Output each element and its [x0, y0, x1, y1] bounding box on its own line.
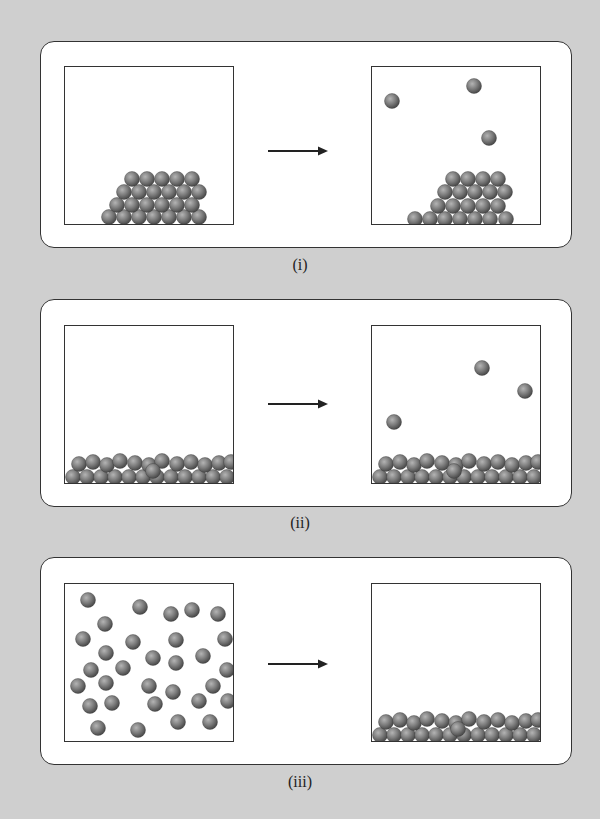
particle: [476, 172, 491, 187]
particle: [170, 198, 185, 213]
particle: [429, 470, 444, 485]
particle: [140, 172, 155, 187]
particle: [393, 455, 408, 470]
particle: [117, 185, 132, 200]
particle: [477, 457, 492, 472]
particle: [132, 185, 147, 200]
particle: [407, 458, 422, 473]
particle: [461, 172, 476, 187]
particle: [468, 212, 483, 226]
particle: [446, 199, 461, 214]
particle: [126, 635, 141, 650]
panel-i-after-box: [371, 66, 541, 225]
particle: [482, 131, 497, 146]
particle: [178, 470, 193, 485]
particle: [499, 212, 514, 226]
particle: [169, 633, 184, 648]
panel-i-label: (i): [0, 256, 600, 274]
panel-ii: [40, 299, 572, 507]
particle: [192, 694, 207, 709]
particle: [147, 185, 162, 200]
panel-iii: [40, 557, 572, 765]
particle: [408, 212, 423, 226]
particle: [518, 384, 533, 399]
particle: [81, 593, 96, 608]
particle: [169, 656, 184, 671]
particle: [170, 172, 185, 187]
particle: [491, 172, 506, 187]
particle: [505, 716, 520, 731]
particle: [477, 715, 492, 730]
particles: [65, 326, 234, 484]
particle: [122, 470, 137, 485]
particle: [110, 198, 125, 213]
particle: [491, 455, 506, 470]
particle: [185, 198, 200, 213]
particle: [146, 464, 161, 479]
particle: [80, 470, 95, 485]
particle: [498, 185, 513, 200]
particle: [379, 457, 394, 472]
particle: [379, 715, 394, 730]
particle: [438, 212, 453, 226]
particle: [116, 661, 131, 676]
panel-iii-after-box: [371, 583, 541, 742]
particle: [221, 694, 235, 709]
particle: [184, 455, 199, 470]
particle: [373, 728, 388, 743]
particle: [407, 716, 422, 731]
particle: [113, 454, 128, 469]
particle: [420, 712, 435, 727]
particle: [475, 361, 490, 376]
particle: [98, 617, 113, 632]
particle: [505, 458, 520, 473]
particle: [438, 185, 453, 200]
particle: [148, 697, 163, 712]
particles: [372, 67, 541, 225]
particle: [420, 454, 435, 469]
particle: [166, 685, 181, 700]
particle: [461, 199, 476, 214]
particle: [373, 470, 388, 485]
particle: [446, 172, 461, 187]
particle: [142, 679, 157, 694]
particle: [476, 199, 491, 214]
particle: [177, 185, 192, 200]
particle: [66, 470, 81, 485]
particle: [483, 185, 498, 200]
particle: [100, 458, 115, 473]
particle: [220, 470, 235, 485]
particle: [185, 172, 200, 187]
particle: [170, 457, 185, 472]
particle: [453, 185, 468, 200]
particles: [372, 326, 541, 484]
particle: [91, 721, 106, 736]
particle: [71, 679, 86, 694]
particle: [387, 415, 402, 430]
particle: [423, 212, 438, 226]
particle: [491, 199, 506, 214]
particle: [211, 607, 226, 622]
particle: [206, 679, 221, 694]
particle: [164, 607, 179, 622]
panel-i-before-box: [64, 66, 234, 225]
particle: [387, 470, 402, 485]
particle: [431, 199, 446, 214]
panel-iii-label: (iii): [0, 773, 600, 791]
particle: [155, 172, 170, 187]
particle: [471, 728, 486, 743]
particle: [140, 198, 155, 213]
particle: [131, 723, 146, 738]
particle: [429, 728, 444, 743]
particle: [220, 663, 235, 678]
particle: [393, 713, 408, 728]
particle: [192, 185, 207, 200]
particle: [128, 456, 143, 471]
panel-ii-after-box: [371, 325, 541, 484]
particle: [527, 728, 542, 743]
particle: [196, 649, 211, 664]
particle: [162, 185, 177, 200]
particle: [218, 632, 233, 647]
particle: [462, 454, 477, 469]
particles: [372, 584, 541, 742]
